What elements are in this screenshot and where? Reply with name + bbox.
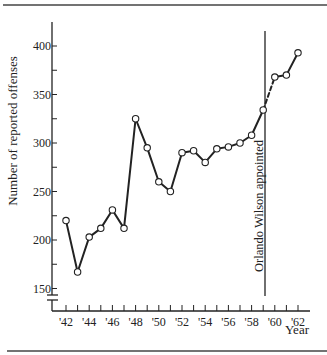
y-axis-ticks: 150200250300350400 bbox=[33, 39, 57, 296]
data-point-marker bbox=[202, 159, 208, 165]
series-segment bbox=[78, 237, 90, 272]
y-tick-label: 150 bbox=[33, 282, 51, 296]
data-point-marker bbox=[98, 225, 104, 231]
y-tick-label: 300 bbox=[33, 136, 51, 150]
y-tick-label: 400 bbox=[33, 39, 51, 53]
data-point-marker bbox=[156, 179, 162, 185]
x-tick-label: '48 bbox=[129, 315, 143, 329]
x-tick-label: '44 bbox=[82, 315, 96, 329]
x-tick-label: '54 bbox=[198, 315, 212, 329]
data-point-marker bbox=[260, 107, 266, 113]
series-segment bbox=[252, 110, 264, 135]
line-chart: Number of reported offenses Year 1502002… bbox=[0, 0, 327, 355]
x-tick-label: '58 bbox=[245, 315, 259, 329]
data-point-marker bbox=[167, 188, 173, 194]
x-tick-label: '60 bbox=[268, 315, 282, 329]
annotation-label: Orlando Wilson appointed bbox=[252, 139, 266, 272]
x-tick-label: '56 bbox=[221, 315, 235, 329]
x-axis-ticks: '42'44'46'48'50'52'54'56'58'60'62 bbox=[59, 305, 305, 329]
data-point-marker bbox=[179, 150, 185, 156]
y-tick-label: 200 bbox=[33, 233, 51, 247]
data-point-marker bbox=[86, 234, 92, 240]
data-point-marker bbox=[225, 144, 231, 150]
series-segment bbox=[286, 53, 298, 75]
data-point-marker bbox=[272, 74, 278, 80]
x-tick-label: '52 bbox=[175, 315, 189, 329]
series-segment bbox=[147, 148, 159, 182]
x-tick-label: '62 bbox=[291, 315, 305, 329]
data-point-marker bbox=[190, 148, 196, 154]
x-tick-label: '42 bbox=[59, 315, 73, 329]
data-point-marker bbox=[63, 217, 69, 223]
data-point-marker bbox=[121, 225, 127, 231]
data-point-marker bbox=[214, 146, 220, 152]
data-point-marker bbox=[132, 116, 138, 122]
x-tick-label: '50 bbox=[152, 315, 166, 329]
data-point-marker bbox=[237, 140, 243, 146]
x-tick-label: '46 bbox=[105, 315, 119, 329]
series-segment bbox=[66, 221, 78, 272]
data-point-marker bbox=[295, 50, 301, 56]
data-point-marker bbox=[109, 207, 115, 213]
data-point-marker bbox=[74, 269, 80, 275]
data-point-marker bbox=[144, 145, 150, 151]
data-point-marker bbox=[248, 132, 254, 138]
data-point-marker bbox=[283, 72, 289, 78]
series-segment bbox=[124, 119, 136, 229]
y-tick-label: 250 bbox=[33, 185, 51, 199]
y-axis-title: Number of reported offenses bbox=[5, 56, 20, 206]
series-segment bbox=[170, 153, 182, 192]
y-tick-label: 350 bbox=[33, 88, 51, 102]
series-segment bbox=[136, 119, 148, 148]
